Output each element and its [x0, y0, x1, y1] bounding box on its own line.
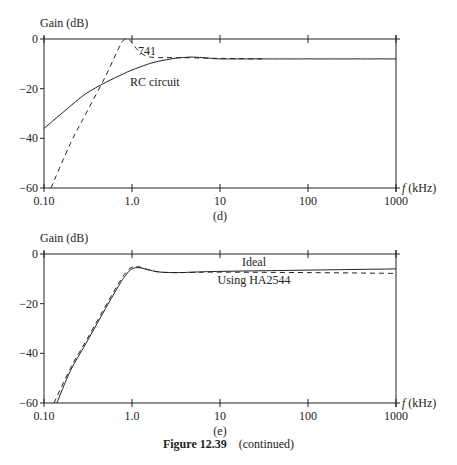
x-tick-label: 10 [214, 409, 226, 423]
series-rc-circuit [44, 57, 396, 128]
x-axis-label: f (kHz) [402, 181, 436, 195]
y-axis-label: Gain (dB) [40, 16, 88, 30]
y-tick-label: −20 [19, 297, 38, 311]
x-tick-label: 1.0 [125, 194, 140, 208]
annotation-rc-circuit: RC circuit [130, 75, 180, 89]
figure-caption: Figure 12.39 (continued) [0, 437, 457, 452]
annotation-using-ha2544: Using HA2544 [217, 273, 290, 287]
annotation-741: 741 [138, 44, 156, 58]
chart-panel-e: 0.101.01010010000−20−40−60Gain (dB)f (kH… [19, 231, 436, 438]
x-tick-label: 0.10 [34, 409, 55, 423]
series-ideal [57, 268, 396, 403]
y-tick-label: −40 [19, 346, 38, 360]
y-axis-label: Gain (dB) [40, 231, 88, 245]
y-tick-label: −40 [19, 131, 38, 145]
x-tick-label: 0.10 [34, 194, 55, 208]
x-axis-label: f (kHz) [402, 396, 436, 410]
y-tick-label: 0 [32, 247, 38, 261]
y-tick-label: 0 [32, 32, 38, 46]
figure-canvas: 0.101.01010010000−20−40−60Gain (dB)f (kH… [0, 0, 457, 465]
figure-caption-text: (continued) [239, 437, 294, 451]
y-tick-label: −20 [19, 82, 38, 96]
y-tick-label: −60 [19, 181, 38, 195]
x-tick-label: 10 [214, 194, 226, 208]
x-tick-label: 100 [299, 194, 317, 208]
series-741 [51, 39, 262, 188]
x-tick-label: 1000 [384, 409, 408, 423]
y-tick-label: −60 [19, 396, 38, 410]
figure-caption-label: Figure 12.39 [163, 437, 227, 451]
panel-label: (e) [213, 424, 226, 438]
annotation-ideal: Ideal [242, 255, 267, 269]
chart-panel-d: 0.101.01010010000−20−40−60Gain (dB)f (kH… [19, 16, 436, 223]
x-tick-label: 100 [299, 409, 317, 423]
x-tick-label: 1.0 [125, 409, 140, 423]
panel-label: (d) [213, 209, 227, 223]
x-tick-label: 1000 [384, 194, 408, 208]
